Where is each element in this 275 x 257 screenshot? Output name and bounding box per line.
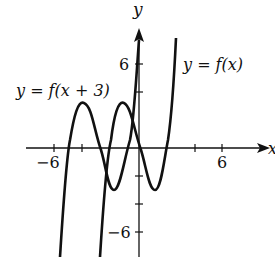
- x-axis-label: x: [268, 139, 275, 158]
- legend-f-x: y = f(x): [182, 55, 243, 74]
- graph-figure: y x −6 6 6 −6 y = f(x) y = f(x + 3): [0, 0, 275, 257]
- x-tick-label-pos6: 6: [217, 153, 227, 172]
- y-axis-label: y: [132, 0, 143, 19]
- y-tick-label-pos6: 6: [119, 55, 129, 74]
- x-tick-label-neg6: −6: [36, 153, 60, 172]
- legend-f-x-shift: y = f(x + 3): [15, 81, 110, 100]
- y-tick-label-neg6: −6: [107, 223, 131, 242]
- plot-svg: y x −6 6 6 −6 y = f(x) y = f(x + 3): [0, 0, 275, 257]
